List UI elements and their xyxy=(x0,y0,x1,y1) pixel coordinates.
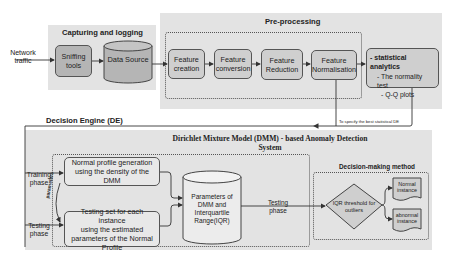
params-label: DMM and xyxy=(183,201,241,209)
iqr-label: IQR threshold for xyxy=(328,200,380,207)
phase-label: phase xyxy=(24,230,54,238)
testing-set-label: using the estimated xyxy=(67,225,157,234)
capturing-title: Capturing and logging xyxy=(62,28,143,37)
step-label: creation xyxy=(174,64,200,73)
abnormal-instance-label: abnormal instance xyxy=(393,212,421,225)
qq-plots-item: - Q-Q plots xyxy=(370,90,435,99)
statistical-analytics-box: - statistical analytics - The normality … xyxy=(366,48,439,88)
decision-method-title: Decision-making method xyxy=(339,163,415,170)
feedback-label: To specify the best statistical DE xyxy=(339,119,399,124)
stats-heading: - statistical analytics xyxy=(370,53,435,72)
sniffing-tools-box: Sniffing tools xyxy=(55,45,92,77)
normal-profile-label: Normal profile generation xyxy=(67,158,157,167)
testing-phase-label: Testing phase xyxy=(24,222,54,238)
network-traffic-label: Network traffic xyxy=(2,49,44,66)
network-label: Network xyxy=(2,49,44,57)
step-label: Feature xyxy=(312,56,356,65)
tools-label: tools xyxy=(62,61,86,70)
dmm-title: Dirichlet Mixture Model (DMM) - based An… xyxy=(150,134,390,153)
step-label: Feature xyxy=(266,56,298,65)
testing-phase-arrow-label: Testing phase xyxy=(258,199,298,214)
feature-conversion-box: Featureconversion xyxy=(214,49,252,79)
decision-engine-title: Decision Engine (DE) xyxy=(46,116,123,125)
iqr-threshold-label: IQR threshold for outliers xyxy=(328,200,380,213)
normal-instance-label: Normal instance xyxy=(393,181,421,194)
step-label: Reduction xyxy=(266,65,298,74)
normal-profile-label: using the density of the DMM xyxy=(67,167,157,185)
dmm-title-line1: Dirichlet Mixture Model (DMM) - based An… xyxy=(150,134,390,143)
testing-label: Testing xyxy=(24,222,54,230)
step-label: conversion xyxy=(216,64,251,73)
dmm-title-line2: System xyxy=(150,143,390,152)
feature-creation-box: Featurecreation xyxy=(168,49,205,79)
step-label: Feature xyxy=(174,55,200,64)
testing-set-label: Testing set for each instance xyxy=(67,207,157,225)
params-store-label: Parameters of DMM and Interquartile Rang… xyxy=(183,193,241,225)
step-label: Normalisation xyxy=(312,65,356,74)
params-label: Interquartile xyxy=(183,209,241,217)
preprocessing-title: Pre-processing xyxy=(265,17,320,26)
instance-label: instance xyxy=(393,187,421,193)
params-label: Parameters of xyxy=(183,193,241,201)
normal-profile-box: Normal profile generationusing the densi… xyxy=(64,157,160,186)
params-label: Range(IQR) xyxy=(183,217,241,225)
sniffing-label: Sniffing xyxy=(62,52,86,61)
testing-set-label: Profile xyxy=(67,243,157,252)
testing-set-box: Testing set for each instanceusing the e… xyxy=(64,211,160,247)
feature-normalisation-box: FeatureNormalisation xyxy=(311,50,357,80)
normality-test-item: - The normality test xyxy=(370,72,435,90)
data-source-label: Data Source xyxy=(104,56,152,65)
feature-reduction-box: FeatureReduction xyxy=(261,49,303,80)
traffic-label: traffic xyxy=(2,57,44,65)
outliers-label: outliers xyxy=(328,207,380,214)
testing-set-label: parameters of the Normal xyxy=(67,234,157,243)
step-label: Feature xyxy=(216,55,251,64)
testing-label: Testing xyxy=(258,199,298,207)
phase-label: phase xyxy=(258,207,298,215)
instance-label: instance xyxy=(393,218,421,224)
